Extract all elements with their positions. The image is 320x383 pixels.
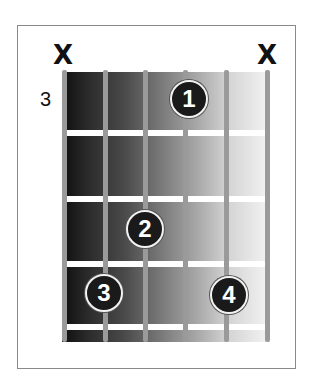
muted-string-1-marker: X bbox=[255, 42, 279, 68]
fret-line-1 bbox=[66, 130, 266, 136]
muted-string-6-marker: X bbox=[51, 42, 75, 68]
string-1 bbox=[265, 70, 270, 342]
finger-4-marker: 4 bbox=[210, 276, 248, 314]
finger-3-marker: 3 bbox=[85, 274, 123, 312]
starting-fret-label: 3 bbox=[40, 88, 51, 111]
fret-line-3 bbox=[66, 261, 266, 267]
finger-2-marker: 2 bbox=[126, 210, 164, 248]
string-4 bbox=[143, 70, 148, 342]
string-6 bbox=[62, 70, 67, 342]
finger-1-marker: 1 bbox=[170, 80, 208, 118]
fret-line-2 bbox=[66, 196, 266, 202]
fret-line-4 bbox=[66, 324, 266, 330]
